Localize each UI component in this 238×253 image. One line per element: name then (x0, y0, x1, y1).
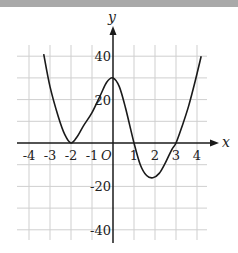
x-tick-label: -4 (23, 148, 36, 163)
y-axis-label: y (107, 9, 117, 25)
origin-label: O (101, 148, 112, 163)
x-tick-label: -3 (44, 148, 57, 163)
chart: -4-3-2-112344020-20-40 x y O (0, 0, 238, 253)
x-tick-label: -1 (86, 148, 99, 163)
x-tick-label: -2 (65, 148, 78, 163)
y-tick-label: -40 (90, 223, 111, 238)
x-axis-label: x (222, 134, 230, 150)
y-tick-label: -20 (90, 179, 111, 194)
axes (17, 26, 219, 243)
y-tick-label: 20 (94, 93, 111, 108)
x-axis-arrow (210, 140, 219, 147)
y-axis-arrow (110, 26, 117, 35)
y-tick-label: 40 (94, 49, 111, 64)
x-tick-label: 3 (172, 148, 180, 163)
x-tick-label: 4 (193, 148, 201, 163)
x-tick-label: 2 (151, 148, 159, 163)
